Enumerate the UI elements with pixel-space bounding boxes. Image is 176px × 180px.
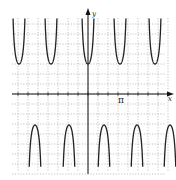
secant-curves: [13, 18, 176, 166]
x-axis-label: x: [168, 95, 172, 103]
function-graph: [0, 0, 176, 180]
grid-lines: [12, 18, 168, 174]
pi-tick-label: π: [118, 95, 124, 105]
y-axis-label: y: [92, 10, 96, 18]
